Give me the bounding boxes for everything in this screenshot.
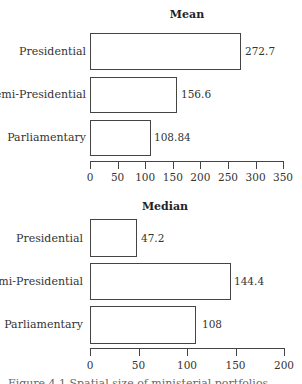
x-tick-label: 50 [132,359,145,371]
category-label: Presidential [19,45,86,58]
value-label: 47.2 [141,232,164,244]
x-tick [283,161,284,169]
category-label: Parliamentary [7,131,86,144]
x-tick [118,161,119,169]
bar-median-presidential [90,219,137,257]
value-label: 108.84 [154,131,191,143]
x-tick-label: 100 [135,171,155,183]
value-label: 272.7 [245,45,275,57]
x-tick [236,348,237,356]
x-tick [145,161,146,169]
x-tick [228,161,229,169]
x-tick-label: 300 [246,171,266,183]
category-label: Semi-Presidential [0,275,83,288]
x-tick-label: 0 [87,359,94,371]
x-tick-label: 50 [111,171,124,183]
value-label: 156.6 [181,88,211,100]
bar-median-parliamentary [90,306,196,344]
x-tick [200,161,201,169]
x-tick-label: 150 [225,359,245,371]
x-tick [256,161,257,169]
figure-caption: Figure 4.1 Spatial size of ministerial p… [8,378,268,384]
x-tick-label: 150 [163,171,183,183]
bar-mean-presidential [90,33,241,70]
category-label: Semi-Presidential [0,88,86,101]
value-label: 108 [202,318,222,330]
x-tick [284,348,285,356]
bar-mean-parliamentary [90,120,151,156]
x-tick-label: 200 [274,359,294,371]
x-tick-label: 100 [177,359,197,371]
x-tick [173,161,174,169]
x-tick [187,348,188,356]
chart-title-median: Median [142,200,188,213]
x-tick-label: 250 [218,171,238,183]
bar-median-semi-presidential [90,263,231,300]
category-label: Parliamentary [4,318,83,331]
x-tick [139,348,140,356]
x-tick [90,161,91,169]
x-tick-label: 200 [190,171,210,183]
x-tick-label: 350 [273,171,293,183]
bar-mean-semi-presidential [90,77,177,113]
value-label: 144.4 [234,275,264,287]
x-tick [90,348,91,356]
chart-title-mean: Mean [170,8,204,21]
category-label: Presidential [16,232,83,245]
x-tick-label: 0 [87,171,94,183]
